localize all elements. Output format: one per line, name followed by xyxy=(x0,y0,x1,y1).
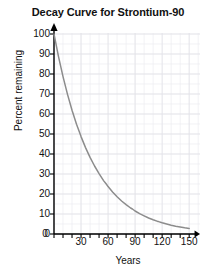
x-tick-label: 30 xyxy=(68,236,94,247)
axis-tick-marks xyxy=(50,34,189,238)
grid-minor-lines xyxy=(54,33,200,234)
decay-curve-line xyxy=(54,34,189,228)
x-tick-label: 120 xyxy=(149,236,175,247)
x-tick-label: 150 xyxy=(176,236,202,247)
decay-curve-figure: Decay Curve for Strontium-90 Percent rem… xyxy=(0,0,216,277)
x-tick-label: 60 xyxy=(95,236,121,247)
x-tick-label: 0 xyxy=(32,228,58,239)
x-tick-label: 90 xyxy=(122,236,148,247)
y-axis-arrow-icon xyxy=(50,23,57,31)
